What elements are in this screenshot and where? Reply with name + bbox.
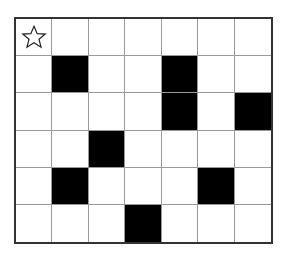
- grid-cell-empty[interactable]: [198, 56, 234, 93]
- grid-cell-filled[interactable]: [89, 131, 125, 168]
- star-icon: [16, 19, 51, 55]
- grid-cell-empty[interactable]: [162, 131, 198, 168]
- grid-cell-empty[interactable]: [162, 168, 198, 205]
- grid-cell-empty[interactable]: [16, 205, 52, 242]
- grid-cell-empty[interactable]: [198, 205, 234, 242]
- grid-cell-empty[interactable]: [52, 93, 88, 130]
- grid-cell-empty[interactable]: [235, 205, 271, 242]
- grid-cell-empty[interactable]: [89, 93, 125, 130]
- grid-cell-empty[interactable]: [89, 168, 125, 205]
- grid-cell-empty[interactable]: [198, 131, 234, 168]
- grid-cell-empty[interactable]: [198, 93, 234, 130]
- grid-cell-empty[interactable]: [16, 93, 52, 130]
- puzzle-grid: [14, 17, 273, 244]
- grid-cell-filled[interactable]: [52, 168, 88, 205]
- grid-cell-filled[interactable]: [162, 56, 198, 93]
- grid-cell-empty[interactable]: [16, 131, 52, 168]
- grid-cell-empty[interactable]: [162, 19, 198, 56]
- grid-cell-empty[interactable]: [125, 93, 161, 130]
- grid-cell-empty[interactable]: [235, 19, 271, 56]
- grid-cell-filled[interactable]: [125, 205, 161, 242]
- grid-cell-empty[interactable]: [125, 56, 161, 93]
- grid-cell-empty[interactable]: [235, 168, 271, 205]
- grid-cell-empty[interactable]: [52, 131, 88, 168]
- grid-cell-empty[interactable]: [16, 168, 52, 205]
- grid-cell-empty[interactable]: [89, 205, 125, 242]
- grid-cell-filled[interactable]: [162, 93, 198, 130]
- grid-cell-empty[interactable]: [52, 19, 88, 56]
- grid-cell-empty[interactable]: [125, 19, 161, 56]
- grid-cell-empty[interactable]: [16, 19, 52, 56]
- grid-cell-filled[interactable]: [52, 56, 88, 93]
- grid-cell-empty[interactable]: [162, 205, 198, 242]
- grid-cell-empty[interactable]: [235, 56, 271, 93]
- grid-cell-empty[interactable]: [89, 19, 125, 56]
- grid-cell-empty[interactable]: [16, 56, 52, 93]
- grid-cell-empty[interactable]: [198, 19, 234, 56]
- grid-cell-filled[interactable]: [235, 93, 271, 130]
- grid-cell-empty[interactable]: [125, 168, 161, 205]
- grid-cell-empty[interactable]: [125, 131, 161, 168]
- grid-cell-empty[interactable]: [235, 131, 271, 168]
- grid-cell-empty[interactable]: [52, 205, 88, 242]
- grid-cell-filled[interactable]: [198, 168, 234, 205]
- grid-cell-empty[interactable]: [89, 56, 125, 93]
